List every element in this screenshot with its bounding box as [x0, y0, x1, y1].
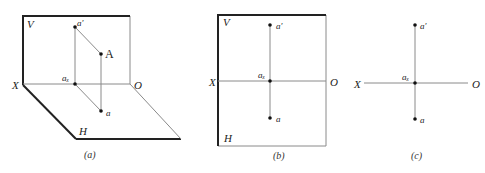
projector-ax-a [75, 84, 101, 111]
label-v-plane: V [223, 16, 231, 28]
label-x: X [208, 76, 217, 88]
label-a-prime: a′ [276, 21, 284, 31]
point-ax [73, 82, 77, 86]
panel-c: X O a′ aₓ a (c) [353, 21, 480, 162]
label-a-prime: a′ [77, 18, 85, 28]
label-ax: aₓ [62, 73, 70, 83]
label-a: a [276, 114, 281, 124]
h-plane-right-edge [130, 84, 181, 139]
label-h-plane: H [223, 132, 233, 144]
panel-b: V X O a′ aₓ a H (b) [208, 14, 338, 162]
panel-a: V X O a′ A aₓ a H (a) [11, 15, 181, 161]
point-a [268, 116, 272, 120]
point-a-prime [268, 23, 272, 27]
caption-b: (b) [273, 150, 285, 162]
caption-a: (a) [84, 149, 96, 161]
point-a [99, 109, 103, 113]
projection-figure: V X O a′ A aₓ a H (a) V X O a′ aₓ a H (b… [0, 0, 485, 173]
label-x: X [11, 79, 20, 91]
caption-c: (c) [411, 150, 423, 162]
point-a-prime [413, 23, 417, 27]
label-a: a [420, 115, 425, 125]
projector-a-prime-A [75, 27, 101, 54]
label-x: X [353, 78, 362, 90]
label-ax: aₓ [402, 72, 410, 82]
point-ax [268, 79, 272, 83]
label-o: O [134, 79, 142, 91]
label-A: A [105, 47, 114, 61]
label-ax: aₓ [258, 70, 266, 80]
label-o: O [330, 76, 338, 88]
label-a: a [106, 108, 111, 118]
label-o: O [472, 78, 480, 90]
h-plane-left-edge [23, 85, 76, 139]
point-a [413, 117, 417, 121]
label-a-prime: a′ [420, 21, 428, 31]
point-ax [413, 81, 417, 85]
label-h-plane: H [78, 125, 88, 137]
point-A [99, 52, 103, 56]
label-v-plane: V [27, 18, 35, 30]
